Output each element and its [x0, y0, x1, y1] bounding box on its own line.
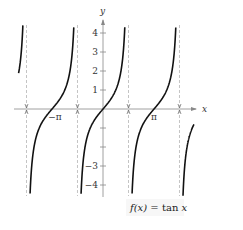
- tan-branch: [183, 124, 194, 195]
- function-equals: =: [147, 202, 162, 213]
- y-axis-label: y: [99, 6, 106, 16]
- x-tick-label: π: [151, 112, 157, 122]
- function-name: f(x): [129, 202, 147, 213]
- function-var: x: [182, 202, 188, 213]
- tan-branch: [30, 27, 74, 193]
- function-body: tan: [162, 202, 182, 213]
- y-tick-label: 3: [92, 47, 98, 57]
- axes: [14, 19, 197, 197]
- x-tick-label: −π: [48, 112, 62, 122]
- tan-curves: [19, 25, 194, 195]
- y-axis-arrow-icon: [101, 19, 105, 25]
- x-axis-arrow-icon: [191, 107, 197, 111]
- tan-branch: [132, 27, 176, 193]
- y-tick-label: 2: [92, 66, 98, 76]
- x-axis-label: x: [202, 104, 207, 114]
- y-tick-label: 1: [92, 85, 98, 95]
- y-tick-label: 4: [92, 28, 98, 38]
- tan-branch: [19, 25, 23, 73]
- function-label: f(x) = tan x: [129, 202, 188, 213]
- y-tick-label: −4: [85, 180, 99, 190]
- y-tick-label: −3: [85, 161, 99, 171]
- tangent-chart: 4321−3−4 −ππ x y f(x) = tan x: [0, 0, 243, 230]
